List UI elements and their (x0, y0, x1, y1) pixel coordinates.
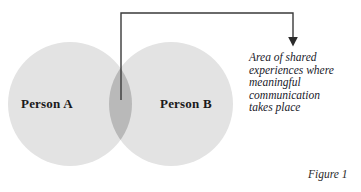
leader-arrowhead-icon (288, 37, 298, 47)
annotation-callout: Area of shared experiences where meaning… (249, 51, 357, 114)
right-circle-label: Person B (160, 96, 212, 112)
left-circle-label: Person A (21, 96, 73, 112)
annotation-line-4: communication (249, 89, 357, 102)
annotation-line-3: meaningful (249, 76, 357, 89)
annotation-line-1: Area of shared (249, 51, 357, 64)
figure-caption: Figure 1 (308, 168, 348, 180)
annotation-line-2: experiences where (249, 64, 357, 77)
annotation-line-5: takes place (249, 101, 357, 114)
venn-diagram-figure: Person A Person B Area of shared experie… (0, 0, 361, 192)
